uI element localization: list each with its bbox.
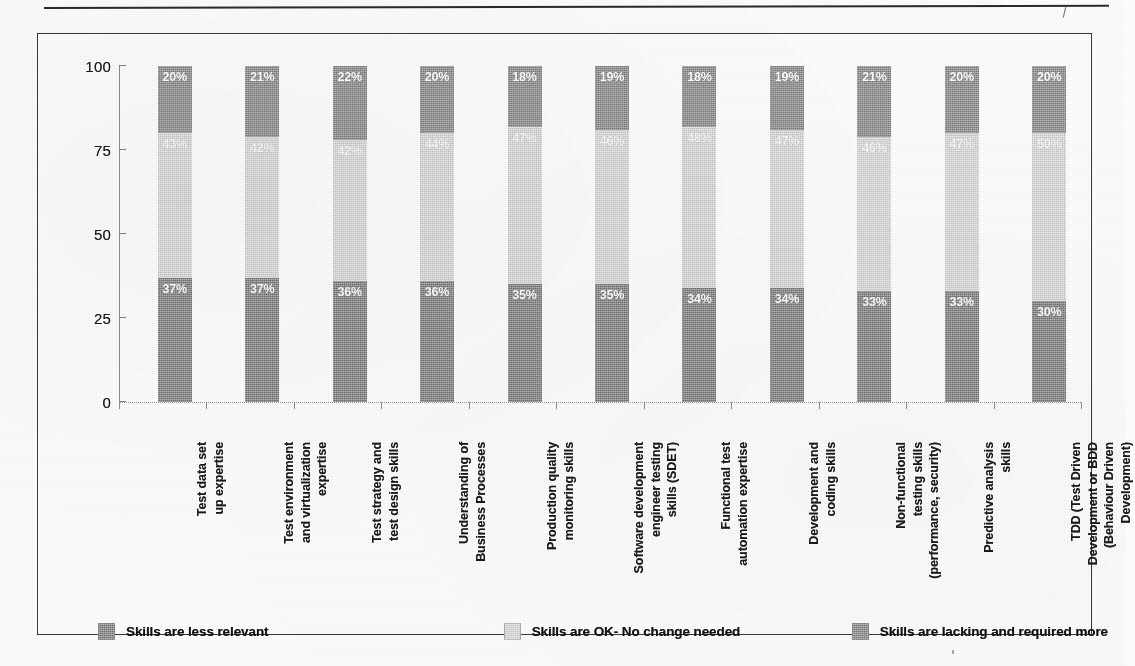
- bar-segment-value-label: 20%: [163, 71, 187, 84]
- bar-segment-value-label: 21%: [250, 71, 274, 84]
- plot-area: 0255075100 37%43%20%37%42%21%36%42%22%36…: [119, 66, 1081, 434]
- category-label-line: Software development: [631, 442, 648, 573]
- category-label-line: Development): [1118, 442, 1135, 523]
- bar-column[interactable]: 37%43%20%: [158, 66, 192, 402]
- bar-segment-lack[interactable]: 22%: [333, 66, 367, 140]
- x-tick-mark: [644, 402, 645, 409]
- category-label-line: engineer testing: [648, 442, 665, 537]
- y-tick-label: 50: [94, 226, 119, 243]
- bar-segment-low[interactable]: 34%: [770, 288, 804, 402]
- y-tick-75: 75: [53, 143, 119, 157]
- bar-column[interactable]: 30%50%20%: [1032, 66, 1066, 402]
- bar-segment-ok[interactable]: 50%: [1032, 133, 1066, 301]
- bar-segment-value-label: 46%: [600, 135, 624, 148]
- bar-segment-ok[interactable]: 47%: [508, 127, 542, 285]
- x-tick-mark: [294, 402, 295, 409]
- category-label-text: Production qualitymonitoring skills: [544, 442, 608, 612]
- bar-segment-lack[interactable]: 21%: [857, 66, 891, 137]
- bar-segment-ok[interactable]: 46%: [595, 130, 629, 285]
- bar-segment-lack[interactable]: 20%: [1032, 66, 1066, 133]
- bar-segment-low[interactable]: 34%: [682, 288, 716, 402]
- bar-segment-low[interactable]: 36%: [333, 281, 367, 402]
- bar-segment-lack[interactable]: 18%: [682, 66, 716, 126]
- bar-segment-ok[interactable]: 48%: [682, 127, 716, 288]
- bar-segment-value-label: 33%: [862, 296, 886, 309]
- category-label: Predictive analysisskills: [981, 442, 1045, 612]
- y-tick-50: 50: [53, 227, 119, 241]
- category-label: TDD (Test DrivenDevelopment or BDD(Behav…: [1068, 442, 1132, 612]
- bar-segment-ok[interactable]: 46%: [857, 137, 891, 292]
- bar-segment-ok[interactable]: 44%: [420, 133, 454, 281]
- category-label-line: Predictive analysis: [981, 442, 998, 553]
- category-label-text: Development andcoding skills: [806, 442, 870, 612]
- bar-segment-value-label: 18%: [687, 71, 711, 84]
- bar-segment-lack[interactable]: 20%: [945, 66, 979, 133]
- category-label-line: automation expertise: [735, 442, 752, 566]
- category-label-line: Test strategy and: [369, 442, 386, 543]
- bar-segment-value-label: 18%: [512, 71, 536, 84]
- legend-item[interactable]: Skills are lacking and required more: [852, 623, 1108, 640]
- category-label-line: Test data set: [194, 442, 211, 516]
- bar-segment-value-label: 43%: [163, 138, 187, 151]
- bar-segment-lack[interactable]: 21%: [245, 66, 279, 137]
- bar-column[interactable]: 35%46%19%: [595, 66, 629, 402]
- bar-segment-value-label: 48%: [687, 132, 711, 145]
- y-tick-100: 100: [53, 59, 119, 73]
- bar-segment-ok[interactable]: 47%: [945, 133, 979, 291]
- legend-item[interactable]: Skills are OK- No change needed: [504, 623, 852, 640]
- bar-segment-ok[interactable]: 47%: [770, 130, 804, 288]
- category-label-line: Production quality: [544, 442, 561, 550]
- bar-segment-low[interactable]: 30%: [1032, 301, 1066, 402]
- category-label-line: testing skills: [910, 442, 927, 516]
- bar-column[interactable]: 34%48%18%: [682, 66, 716, 402]
- category-label: Test environmentand virtualizationexpert…: [281, 442, 345, 612]
- bar-segment-lack[interactable]: 20%: [420, 66, 454, 133]
- category-label: Software developmentengineer testingskil…: [631, 442, 695, 612]
- bar-segment-value-label: 47%: [950, 138, 974, 151]
- category-label-text: Functional testautomation expertise: [718, 442, 782, 612]
- x-tick-mark: [381, 402, 382, 409]
- bar-column[interactable]: 33%46%21%: [857, 66, 891, 402]
- category-label-line: Test environment: [281, 442, 298, 544]
- bar-segment-low[interactable]: 33%: [945, 291, 979, 402]
- bar-column[interactable]: 34%47%19%: [770, 66, 804, 402]
- bar-segment-ok[interactable]: 43%: [158, 133, 192, 277]
- bar-column[interactable]: 36%44%20%: [420, 66, 454, 402]
- category-label-text: Understanding ofBusiness Processes: [456, 442, 520, 612]
- legend-label: Skills are lacking and required more: [880, 624, 1108, 639]
- chart-legend: Skills are less relevantSkills are OK- N…: [98, 620, 1108, 642]
- bar-segment-value-label: 35%: [600, 289, 624, 302]
- category-label: Functional testautomation expertise: [718, 442, 782, 612]
- bar-segment-value-label: 44%: [425, 138, 449, 151]
- bar-segment-value-label: 19%: [600, 71, 624, 84]
- category-label-line: skills: [997, 442, 1014, 473]
- bar-segment-lack[interactable]: 19%: [595, 66, 629, 130]
- bar-segment-low[interactable]: 35%: [508, 284, 542, 402]
- x-tick-mark: [206, 402, 207, 409]
- bar-segment-low[interactable]: 37%: [158, 278, 192, 402]
- bar-segment-ok[interactable]: 42%: [245, 137, 279, 278]
- bar-column[interactable]: 35%47%18%: [508, 66, 542, 402]
- bar-segment-low[interactable]: 37%: [245, 278, 279, 402]
- bar-segment-low[interactable]: 36%: [420, 281, 454, 402]
- y-tick-25: 25: [53, 311, 119, 325]
- category-label-text: Software developmentengineer testingskil…: [631, 442, 695, 612]
- bar-column[interactable]: 37%42%21%: [245, 66, 279, 402]
- bar-column[interactable]: 33%47%20%: [945, 66, 979, 402]
- legend-swatch-icon: [852, 623, 869, 640]
- legend-item[interactable]: Skills are less relevant: [98, 623, 504, 640]
- bar-segment-ok[interactable]: 42%: [333, 140, 367, 281]
- category-label: Understanding ofBusiness Processes: [456, 442, 520, 612]
- legend-swatch-icon: [98, 623, 115, 640]
- x-tick-mark: [906, 402, 907, 409]
- bar-segment-low[interactable]: 35%: [595, 284, 629, 402]
- category-label-line: TDD (Test Driven: [1068, 442, 1085, 541]
- scan-speck: [952, 650, 954, 654]
- bar-segment-low[interactable]: 33%: [857, 291, 891, 402]
- bar-segment-lack[interactable]: 18%: [508, 66, 542, 126]
- bar-segment-lack[interactable]: 19%: [770, 66, 804, 130]
- bar-segment-lack[interactable]: 20%: [158, 66, 192, 133]
- bar-segment-value-label: 21%: [862, 71, 886, 84]
- bar-column[interactable]: 36%42%22%: [333, 66, 367, 402]
- page-header-rule: [44, 5, 1109, 9]
